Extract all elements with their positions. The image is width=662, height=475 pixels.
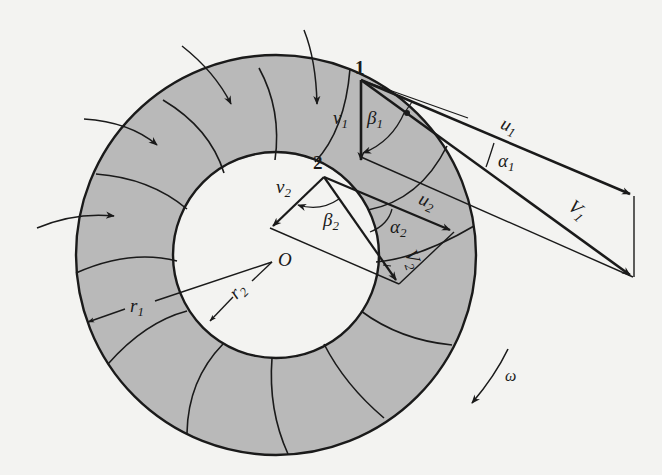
radius-r2-arrow <box>210 297 233 321</box>
label-V1: V1 <box>562 195 591 225</box>
label-beta2: β2 <box>322 209 339 233</box>
rotation-arrow-icon <box>472 349 508 403</box>
label-point-2: 2 <box>313 152 323 173</box>
point-1-dot <box>404 110 410 116</box>
label-omega: ω <box>505 367 516 384</box>
label-u1: u1 <box>497 112 521 140</box>
turbine-runner-diagram: 1 2 O v1 β1 u1 α1 V1 v2 β2 u2 α2 V2 r1 r… <box>0 0 662 475</box>
beta2-angle-arc <box>298 199 339 207</box>
alpha1-angle-arc <box>486 143 494 167</box>
label-center-O: O <box>278 249 292 270</box>
label-alpha1: α1 <box>498 150 514 174</box>
label-v2: v2 <box>276 176 291 200</box>
label-point-1: 1 <box>355 57 365 78</box>
